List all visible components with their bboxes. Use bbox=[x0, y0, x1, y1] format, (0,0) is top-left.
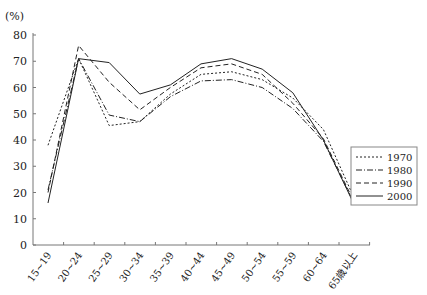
y-tick-label: 50 bbox=[13, 108, 27, 121]
x-tick-label: 60~64 bbox=[301, 250, 329, 284]
y-axis: 01020304050607080 bbox=[13, 29, 36, 252]
y-tick-label: 40 bbox=[13, 134, 27, 147]
x-tick-label: 35~39 bbox=[148, 250, 176, 284]
x-tick-label: 45~49 bbox=[209, 250, 237, 284]
y-tick-label: 30 bbox=[13, 160, 27, 173]
y-tick-label: 80 bbox=[13, 29, 27, 42]
x-tick-label: 30~34 bbox=[117, 250, 145, 284]
series-line-1970 bbox=[48, 59, 354, 198]
y-tick-label: 10 bbox=[13, 213, 27, 226]
x-tick-label: 20~24 bbox=[56, 250, 84, 284]
y-tick-label: 20 bbox=[13, 187, 27, 200]
legend: 1970198019902000 bbox=[351, 147, 417, 205]
legend-label: 1990 bbox=[387, 178, 412, 189]
plot-series bbox=[48, 46, 354, 205]
y-axis-unit-label: (%) bbox=[5, 10, 24, 23]
line-chart: (%) 01020304050607080 15~1920~2425~2930~… bbox=[0, 0, 427, 295]
x-axis: 15~1920~2425~2930~3435~3940~4445~4950~54… bbox=[25, 242, 370, 291]
x-tick-label: 55~59 bbox=[270, 250, 298, 284]
y-tick-label: 60 bbox=[13, 82, 27, 95]
y-tick-label: 70 bbox=[13, 55, 27, 68]
x-tick-label: 40~44 bbox=[178, 250, 206, 284]
legend-label: 2000 bbox=[387, 191, 412, 202]
x-tick-label: 65歳以上 bbox=[326, 250, 360, 291]
legend-label: 1970 bbox=[387, 152, 412, 163]
chart-canvas: (%) 01020304050607080 15~1920~2425~2930~… bbox=[0, 0, 427, 295]
x-tick-label: 50~54 bbox=[239, 250, 267, 284]
legend-label: 1980 bbox=[387, 165, 412, 176]
y-tick-label: 0 bbox=[20, 239, 27, 252]
x-tick-label: 15~19 bbox=[25, 250, 53, 284]
series-line-2000 bbox=[48, 59, 354, 205]
series-line-1990 bbox=[48, 46, 354, 202]
series-line-1980 bbox=[48, 59, 354, 203]
x-tick-label: 25~29 bbox=[86, 250, 114, 284]
